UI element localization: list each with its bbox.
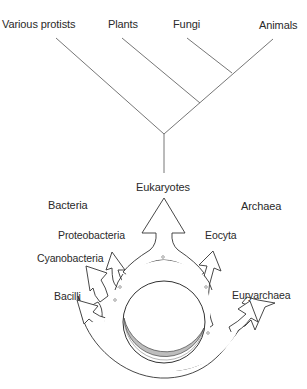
label-bacilli: Bacilli (54, 290, 81, 302)
label-archaea: Archaea (241, 200, 281, 212)
eukaryote-tree (56, 38, 273, 173)
label-eukaryotes: Eukaryotes (136, 181, 190, 193)
label-eocyta: Eocyta (205, 229, 237, 241)
dot (114, 299, 117, 302)
label-cyanobacteria: Cyanobacteria (37, 252, 103, 264)
dot (207, 332, 210, 335)
dot (162, 256, 165, 259)
branch-plants (122, 38, 200, 103)
tree-of-life-diagram: Various protists Plants Fungi Animals Eu… (0, 0, 307, 389)
label-various-protists: Various protists (2, 18, 75, 30)
label-euryarchaea: Euryarchaea (232, 289, 290, 301)
cyanobacteria-arrow (86, 266, 108, 302)
diagram-graphics (0, 0, 307, 389)
label-proteobacteria: Proteobacteria (58, 229, 125, 241)
branch-various-protists (56, 38, 164, 134)
dot (119, 286, 122, 289)
label-fungi: Fungi (173, 18, 200, 30)
label-animals: Animals (259, 19, 297, 31)
label-plants: Plants (108, 18, 138, 30)
dot (205, 286, 208, 289)
central-circle (123, 281, 205, 363)
label-bacteria: Bacteria (48, 199, 88, 211)
branch-fungi (187, 38, 232, 73)
